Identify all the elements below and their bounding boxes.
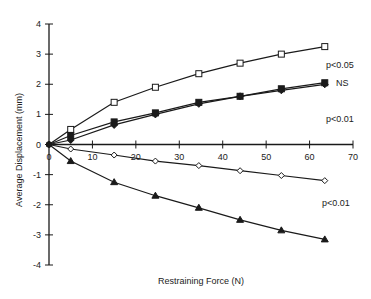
data-point-open-diamond <box>278 173 284 179</box>
series-group <box>46 44 328 242</box>
data-point-filled-triangle <box>67 158 74 164</box>
annotation-ns: NS <box>336 78 349 88</box>
data-point-open-square <box>68 126 74 132</box>
x-tick-label: 30 <box>174 152 184 162</box>
x-tick-label: 20 <box>131 152 141 162</box>
data-point-open-square <box>196 71 202 77</box>
y-tick-label: 2 <box>36 79 41 89</box>
x-tick-label: 60 <box>305 152 315 162</box>
series-line <box>49 84 325 144</box>
annotation-p001-upper: p<0.01 <box>326 114 354 124</box>
y-tick-label: -4 <box>33 260 41 270</box>
x-tick-label: 50 <box>261 152 271 162</box>
y-tick-label: 4 <box>36 19 41 29</box>
y-tick-label: -1 <box>33 170 41 180</box>
series-filled-diamond <box>46 81 328 147</box>
data-point-open-diamond <box>196 163 202 169</box>
series-open-diamond <box>46 142 327 184</box>
data-point-filled-triangle <box>46 142 51 147</box>
x-tick-label: 0 <box>46 152 51 162</box>
data-point-open-square <box>278 51 284 57</box>
y-tick-label: 3 <box>36 49 41 59</box>
x-tick-label: 40 <box>218 152 228 162</box>
x-tick-label: 10 <box>87 152 97 162</box>
y-tick-label: -3 <box>33 230 41 240</box>
y-tick-label: -2 <box>33 200 41 210</box>
line-chart: 43210-1-2-3-4010203040506070 Restraining… <box>0 0 371 299</box>
x-axis-title: Restraining Force (N) <box>158 276 244 286</box>
series-open-square <box>46 44 327 148</box>
data-point-open-diamond <box>322 178 328 184</box>
axes <box>45 24 353 265</box>
y-tick-label: 0 <box>36 140 41 150</box>
y-tick-label: 1 <box>36 109 41 119</box>
annotation-p005: p<0.05 <box>326 60 354 70</box>
annotation-p001-lower: p<0.01 <box>322 198 350 208</box>
data-point-open-diamond <box>152 158 158 164</box>
data-point-open-diamond <box>68 146 74 152</box>
data-point-open-square <box>322 44 328 50</box>
x-tick-label: 70 <box>348 152 358 162</box>
y-axis-title: Average Displacement (mm) <box>14 93 24 207</box>
data-point-open-square <box>152 84 158 90</box>
data-point-open-diamond <box>237 168 243 174</box>
data-point-open-square <box>237 60 243 66</box>
data-point-open-square <box>111 99 117 105</box>
data-point-open-diamond <box>111 152 117 158</box>
